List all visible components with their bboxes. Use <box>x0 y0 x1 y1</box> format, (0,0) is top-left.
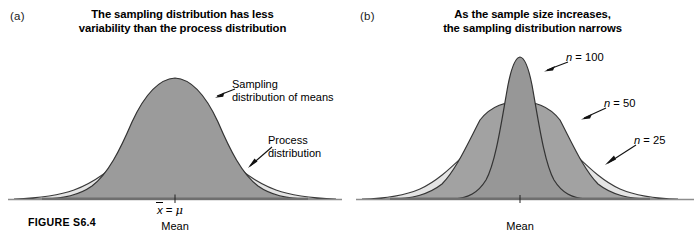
annotation-sampling-line1: Sampling <box>232 78 334 91</box>
annotation-sampling-distribution: Sampling distribution of means <box>232 78 334 105</box>
arrowhead-n-25 <box>605 156 616 166</box>
panel-b-plot <box>350 0 699 247</box>
label-n-100-eq: = <box>572 51 585 63</box>
arrowhead-n-100 <box>544 66 555 72</box>
label-n-100-value: 100 <box>585 51 604 63</box>
panel-a-axis-label: Mean <box>145 220 205 232</box>
panel-a: (a) The sampling distribution has less v… <box>0 0 349 247</box>
annotation-process-line2: distribution <box>268 147 321 160</box>
label-n-50-eq: = <box>610 97 623 109</box>
label-n-50-value: 50 <box>623 97 635 109</box>
label-n-25: n = 25 <box>634 134 665 146</box>
annotation-sampling-line2: distribution of means <box>232 91 334 104</box>
annotation-process-distribution: Process distribution <box>268 134 321 161</box>
mu-symbol: μ <box>175 203 182 217</box>
figure-s6-4: (a) The sampling distribution has less v… <box>0 0 699 247</box>
label-n-25-eq: = <box>640 134 653 146</box>
label-n-25-value: 25 <box>653 134 665 146</box>
center-mean-symbol: x=μ <box>157 203 183 217</box>
label-n-100: n = 100 <box>566 51 604 63</box>
label-n-50: n = 50 <box>604 97 635 109</box>
x-bar-symbol: x <box>157 204 163 216</box>
panel-b: (b) As the sample size increases, the sa… <box>350 0 699 247</box>
equals-symbol: = <box>166 204 173 216</box>
arrowhead-process-distribution <box>248 159 258 169</box>
annotation-process-line1: Process <box>268 134 321 147</box>
panel-b-axis-label: Mean <box>490 220 550 232</box>
figure-caption: FIGURE S6.4 <box>28 216 96 228</box>
